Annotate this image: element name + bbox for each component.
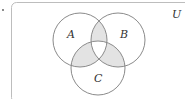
label-c: C [94, 72, 103, 85]
venn-diagram: A B C U [0, 0, 185, 99]
label-a: A [66, 28, 75, 41]
item-marker-dot [2, 9, 4, 11]
label-universe: U [172, 8, 182, 21]
label-b: B [119, 28, 128, 41]
